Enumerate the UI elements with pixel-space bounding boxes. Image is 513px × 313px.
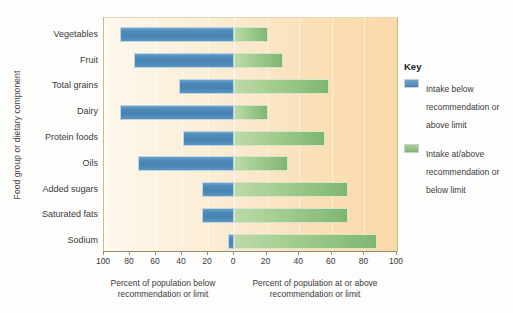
bar-at-above-recommendation: [234, 53, 283, 68]
axis-tick-label: 100: [389, 256, 403, 266]
axis-tick: [298, 251, 299, 255]
bar-below-recommendation: [183, 131, 234, 146]
legend-title: Key: [404, 61, 509, 72]
bar-below-recommendation: [120, 27, 234, 42]
bar-at-above-recommendation: [234, 79, 329, 94]
bar-row: [104, 105, 397, 120]
category-label: Sodium: [18, 235, 98, 245]
legend-label-blue: Intake below recommendation or above lim…: [426, 84, 499, 130]
x-axis-label-right: Percent of population at or above recomm…: [240, 278, 390, 299]
bar-at-above-recommendation: [234, 105, 268, 120]
axis-tick-label: 80: [124, 256, 133, 266]
axis-tick-label: 40: [176, 256, 185, 266]
axis-tick: [155, 251, 156, 255]
bar-row: [104, 156, 397, 171]
axis-tick: [129, 251, 130, 255]
bar-row: [104, 79, 397, 94]
bar-at-above-recommendation: [234, 27, 268, 42]
bar-at-above-recommendation: [234, 156, 288, 171]
bar-below-recommendation: [202, 208, 235, 223]
chart-root: Food group or dietary component Vegetabl…: [0, 0, 513, 313]
axis-tick: [266, 251, 267, 255]
axis-tick-label: 60: [326, 256, 335, 266]
bar-at-above-recommendation: [234, 131, 325, 146]
axis-tick: [207, 251, 208, 255]
axis-tick: [331, 251, 332, 255]
axis-tick-label: 20: [261, 256, 270, 266]
axis-tick: [103, 251, 104, 255]
axis-tick-label: 40: [293, 256, 302, 266]
category-label: Fruit: [18, 55, 98, 65]
category-label: Oils: [18, 158, 98, 168]
bar-row: [104, 182, 397, 197]
bar-row: [104, 208, 397, 223]
legend-swatch-blue-icon: [404, 79, 419, 88]
x-axis-label-left: Percent of population below recommendati…: [88, 278, 238, 299]
category-label: Total grains: [18, 80, 98, 90]
axis-tick: [181, 251, 182, 255]
bar-row: [104, 27, 397, 42]
category-label-list: VegetablesFruitTotal grainsDairyProtein …: [18, 18, 98, 250]
axis-tick-label: 80: [359, 256, 368, 266]
axis-tick-label: 20: [202, 256, 211, 266]
bar-at-above-recommendation: [234, 182, 348, 197]
bar-below-recommendation: [120, 105, 234, 120]
bar-row: [104, 131, 397, 146]
bar-row: [104, 53, 397, 68]
legend: Key Intake below recommendation or above…: [404, 61, 509, 208]
axis-tick: [396, 251, 397, 255]
bar-at-above-recommendation: [234, 208, 348, 223]
axis-tick-label: 60: [150, 256, 159, 266]
category-label: Vegetables: [18, 29, 98, 39]
legend-item-blue: Intake below recommendation or above lim…: [404, 78, 509, 132]
x-axis-line: [103, 251, 396, 252]
bar-row: [104, 234, 397, 249]
legend-item-green: Intake at/above recommendation or below …: [404, 143, 509, 197]
category-label: Added sugars: [18, 184, 98, 194]
axis-tick: [233, 251, 234, 255]
category-label: Dairy: [18, 106, 98, 116]
axis-tick: [363, 251, 364, 255]
plot-area: [103, 17, 398, 252]
axis-tick-label: 100: [96, 256, 110, 266]
bar-below-recommendation: [138, 156, 234, 171]
bar-below-recommendation: [202, 182, 235, 197]
category-label: Protein foods: [18, 132, 98, 142]
legend-swatch-green-icon: [404, 144, 419, 153]
category-label: Saturated fats: [18, 209, 98, 219]
gridline: [397, 18, 398, 252]
bar-below-recommendation: [179, 79, 234, 94]
legend-label-green: Intake at/above recommendation or below …: [426, 149, 499, 195]
bar-below-recommendation: [134, 53, 234, 68]
axis-tick-label: 0: [231, 256, 236, 266]
bar-at-above-recommendation: [234, 234, 377, 249]
